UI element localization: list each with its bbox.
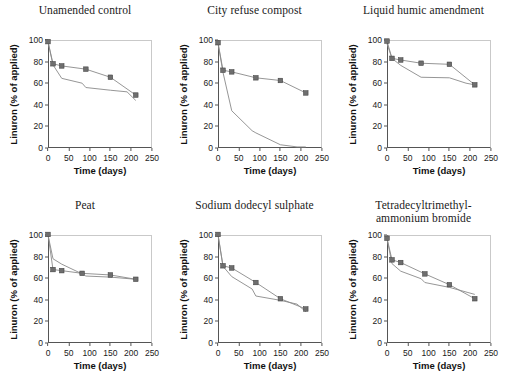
y-tick-label: 40 [204,295,218,305]
y-tick-label: 80 [34,57,48,67]
data-point-square [46,39,51,44]
y-tick-label: 100 [199,35,218,45]
data-point-square [59,268,64,273]
y-axis-label: Linuron (% of applied) [6,40,20,148]
y-tick-label: 100 [29,230,48,240]
series-line-square [218,43,306,93]
y-tick-label: 80 [204,57,218,67]
y-tick-label: 80 [204,252,218,262]
panel-title-line1: Peat [75,199,95,211]
plot-wrap: 020406080100 050100150200250 [218,40,322,148]
x-tick-label: 0 [216,343,221,358]
x-tick-label: 50 [64,343,73,358]
series-layer [387,40,491,148]
y-tick-label: 20 [34,316,48,326]
x-tick-label: 50 [64,148,73,163]
y-tick-label: 60 [204,273,218,283]
data-point-square [472,83,477,88]
x-axis-label: Time (days) [218,165,322,176]
x-tick-label: 0 [385,148,390,163]
chart-panel-peat: Peat Linuron (% of applied) 020406080100… [0,195,170,391]
panel-title-line1: City refuse compost [207,4,302,16]
data-point-square [423,272,428,277]
y-tick-label: 80 [373,252,387,262]
y-tick-label: 100 [368,35,387,45]
y-tick-label: 40 [373,295,387,305]
x-tick-label: 200 [124,148,138,163]
x-tick-label: 0 [46,343,51,358]
panel-title: Peat [0,199,170,212]
y-tick-label: 40 [34,295,48,305]
data-point-square [84,67,89,72]
series-layer [48,40,152,148]
x-tick-label: 250 [145,343,159,358]
data-point-square [472,296,477,301]
x-axis-label: Time (days) [387,360,491,371]
y-tick-label: 100 [29,35,48,45]
data-point-square [133,277,138,282]
y-tick-label: 40 [204,100,218,110]
x-tick-label: 100 [83,148,97,163]
data-point-square [108,273,113,278]
series-line-square [387,41,475,85]
x-axis-label: Time (days) [48,165,152,176]
plot-wrap: 020406080100 050100150200250 [48,40,152,148]
y-tick-label: 60 [373,273,387,283]
panel-title: Tetradecyltrimethyl- ammonium bromide [339,199,508,224]
x-tick-label: 100 [422,148,436,163]
x-tick-label: 0 [385,343,390,358]
x-tick-label: 50 [403,148,412,163]
x-tick-label: 200 [124,343,138,358]
data-point-square [59,64,64,69]
data-point-square [221,263,226,268]
y-tick-label: 60 [34,78,48,88]
y-tick-label: 80 [34,252,48,262]
data-point-square [398,260,403,265]
panel-title-line1: Sodium dodecyl sulphate [195,199,314,211]
plot-wrap: 020406080100 050100150200250 [387,40,491,148]
x-axis-label: Time (days) [387,165,491,176]
chart-panel-liquid-humic-amendment: Liquid humic amendment Linuron (% of app… [339,0,508,195]
x-tick-label: 0 [46,148,51,163]
y-axis-label: Linuron (% of applied) [345,235,359,343]
data-point-square [390,56,395,61]
x-tick-label: 50 [234,148,243,163]
data-point-square [390,258,395,263]
plot-wrap: 020406080100 050100150200250 [218,235,322,343]
y-tick-label: 20 [373,121,387,131]
data-point-square [229,266,234,271]
data-point-square [108,75,113,80]
data-point-square [133,93,138,98]
x-tick-label: 150 [103,148,117,163]
panel-title-line1: Liquid humic amendment [363,4,484,16]
y-tick-label: 40 [373,100,387,110]
panel-title-line2: ammonium bromide [339,212,508,225]
x-tick-label: 100 [422,343,436,358]
y-tick-label: 60 [34,273,48,283]
data-point-square [419,61,424,66]
series-line-square [218,234,306,309]
chart-panel-tetradecyltrimethylammonium-bromide: Tetradecyltrimethyl- ammonium bromide Li… [339,195,508,391]
data-point-square [216,232,221,237]
x-tick-label: 200 [463,148,477,163]
plot-wrap: 020406080100 050100150200250 [48,235,152,343]
series-line-diamond [387,44,475,85]
y-tick-label: 20 [373,316,387,326]
y-tick-label: 100 [368,230,387,240]
x-tick-label: 150 [273,148,287,163]
plot-wrap: 020406080100 050100150200250 [387,235,491,343]
x-tick-label: 250 [484,148,498,163]
data-point-square [46,232,51,237]
y-tick-label: 60 [373,78,387,88]
series-layer [218,235,322,343]
x-tick-label: 250 [484,343,498,358]
data-point-square [216,40,221,45]
panel-title: Liquid humic amendment [339,4,508,17]
series-line-diamond [387,239,475,295]
y-tick-label: 20 [204,121,218,131]
data-point-square [278,296,283,301]
data-point-square [254,280,259,285]
chart-panel-city-refuse-compost: City refuse compost Linuron (% of applie… [170,0,339,195]
data-point-square [254,76,259,81]
x-tick-label: 0 [216,148,221,163]
